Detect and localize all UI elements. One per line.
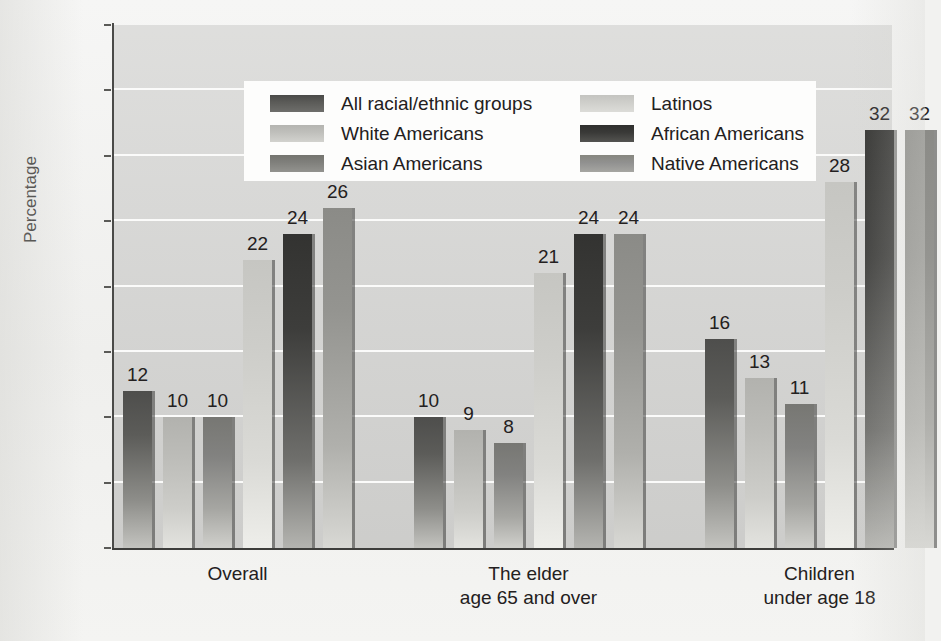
bar — [865, 130, 894, 548]
bar-value-label: 26 — [313, 182, 362, 201]
y-tick-mark — [104, 351, 111, 353]
bar — [163, 417, 192, 548]
bar — [745, 378, 774, 548]
y-tick-mark — [104, 416, 111, 418]
legend-column-right: LatinosAfrican AmericansNative Americans — [580, 92, 816, 181]
x-axis-group-label-line: Overall — [73, 562, 402, 586]
y-tick-mark — [104, 24, 111, 26]
legend-swatch — [580, 95, 634, 112]
x-axis-group-label-line: under age 18 — [655, 586, 941, 610]
legend-swatch — [270, 155, 324, 172]
bar-value-label: 24 — [273, 208, 322, 227]
bar-value-label: 8 — [484, 417, 533, 436]
legend-label: Latinos — [651, 94, 712, 113]
bar-value-label: 22 — [233, 234, 282, 253]
bar-value-label: 32 — [895, 104, 941, 123]
bar — [203, 417, 232, 548]
bar-chart: 0%5%10%15%20%25%30%35%40% Percentage 121… — [113, 25, 892, 548]
bar — [785, 404, 814, 548]
legend-label: Asian Americans — [341, 154, 483, 173]
bar-value-label: 11 — [775, 378, 824, 397]
y-tick-mark — [104, 89, 111, 91]
legend-swatch — [580, 125, 634, 142]
legend-label: All racial/ethnic groups — [341, 94, 532, 113]
bar — [825, 182, 854, 548]
bar — [123, 391, 152, 548]
legend-item[interactable]: Native Americans — [580, 152, 816, 174]
bar — [705, 339, 734, 548]
bar — [574, 234, 603, 548]
bar — [414, 417, 443, 548]
y-axis-line — [112, 23, 114, 548]
legend-item[interactable]: White Americans — [270, 122, 580, 144]
y-tick-mark — [104, 482, 111, 484]
bar — [614, 234, 643, 548]
bar — [323, 208, 352, 548]
x-axis-group-label: Overall — [73, 562, 402, 586]
bar-value-label: 12 — [113, 365, 162, 384]
legend-swatch — [270, 125, 324, 142]
legend-swatch — [580, 155, 634, 172]
bar-value-label: 16 — [695, 313, 744, 332]
gridline — [113, 219, 892, 221]
bar — [243, 260, 272, 548]
legend-column-left: All racial/ethnic groupsWhite AmericansA… — [270, 92, 580, 181]
x-axis-group-label: The elderage 65 and over — [364, 562, 693, 610]
x-axis-group-label-line: The elder — [364, 562, 693, 586]
y-tick-mark — [104, 155, 111, 157]
bar — [454, 430, 483, 548]
y-tick-mark — [104, 220, 111, 222]
bar — [905, 130, 934, 548]
bar-value-label: 21 — [524, 247, 573, 266]
legend-item[interactable]: African Americans — [580, 122, 816, 144]
legend-item[interactable]: Latinos — [580, 92, 816, 114]
y-tick-mark — [104, 547, 111, 549]
legend-item[interactable]: Asian Americans — [270, 152, 580, 174]
bar — [534, 273, 563, 548]
bar-value-label: 28 — [815, 156, 864, 175]
bar — [283, 234, 312, 548]
legend-label: African Americans — [651, 124, 804, 143]
bar — [494, 443, 523, 548]
legend-swatch — [270, 95, 324, 112]
bar-value-label: 24 — [604, 208, 653, 227]
x-axis-group-label-line: Children — [655, 562, 941, 586]
chart-legend: All racial/ethnic groupsWhite AmericansA… — [244, 81, 816, 181]
x-axis-line — [112, 548, 894, 550]
x-axis-group-label-line: age 65 and over — [364, 586, 693, 610]
gridline — [113, 285, 892, 287]
bar-value-label: 13 — [735, 352, 784, 371]
bar-value-label: 10 — [193, 391, 242, 410]
legend-label: White Americans — [341, 124, 484, 143]
legend-label: Native Americans — [651, 154, 799, 173]
y-axis-title: Percentage — [21, 156, 41, 243]
x-axis-group-label: Childrenunder age 18 — [655, 562, 941, 610]
legend-item[interactable]: All racial/ethnic groups — [270, 92, 580, 114]
y-tick-mark — [104, 286, 111, 288]
